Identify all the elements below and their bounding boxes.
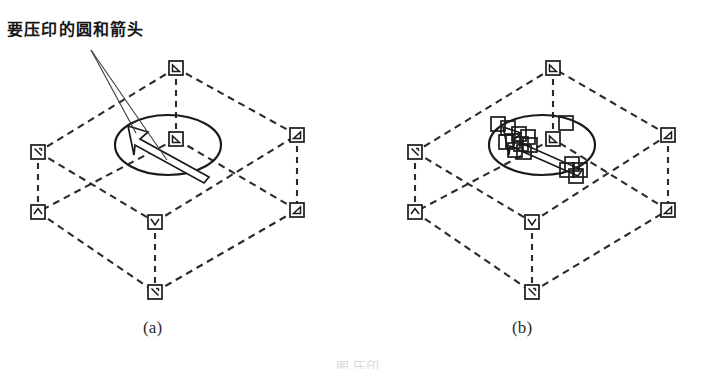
figure-root: 要压印的圆和箭头 (a) (b) 图 压印	[0, 0, 715, 369]
node-marker	[661, 128, 675, 142]
node-marker	[525, 285, 539, 299]
node-marker	[148, 285, 162, 299]
node-marker	[661, 203, 675, 217]
annotation-leader-lines	[91, 50, 167, 160]
panel-a-wireframe	[38, 68, 297, 292]
panel-b-imprint-nodes	[491, 116, 587, 183]
node-marker	[408, 145, 422, 159]
node-marker	[148, 215, 162, 229]
node-marker	[408, 205, 422, 219]
node-marker	[31, 205, 45, 219]
node-marker	[169, 132, 183, 146]
node-marker	[169, 61, 183, 75]
node-marker	[31, 145, 45, 159]
imprint-annotation-label: 要压印的圆和箭头	[7, 16, 145, 40]
figure-caption: 图 压印	[0, 356, 715, 369]
panel-label-b: (b)	[512, 318, 532, 338]
panel-b-wireframe	[415, 68, 668, 292]
imprint-diagram	[0, 0, 715, 369]
panel-a-nodes	[31, 61, 304, 299]
node-marker	[546, 61, 560, 75]
node-marker	[290, 203, 304, 217]
node-marker	[525, 215, 539, 229]
panel-b-nodes	[408, 61, 675, 299]
node-marker	[290, 128, 304, 142]
panel-label-a: (a)	[143, 318, 162, 338]
